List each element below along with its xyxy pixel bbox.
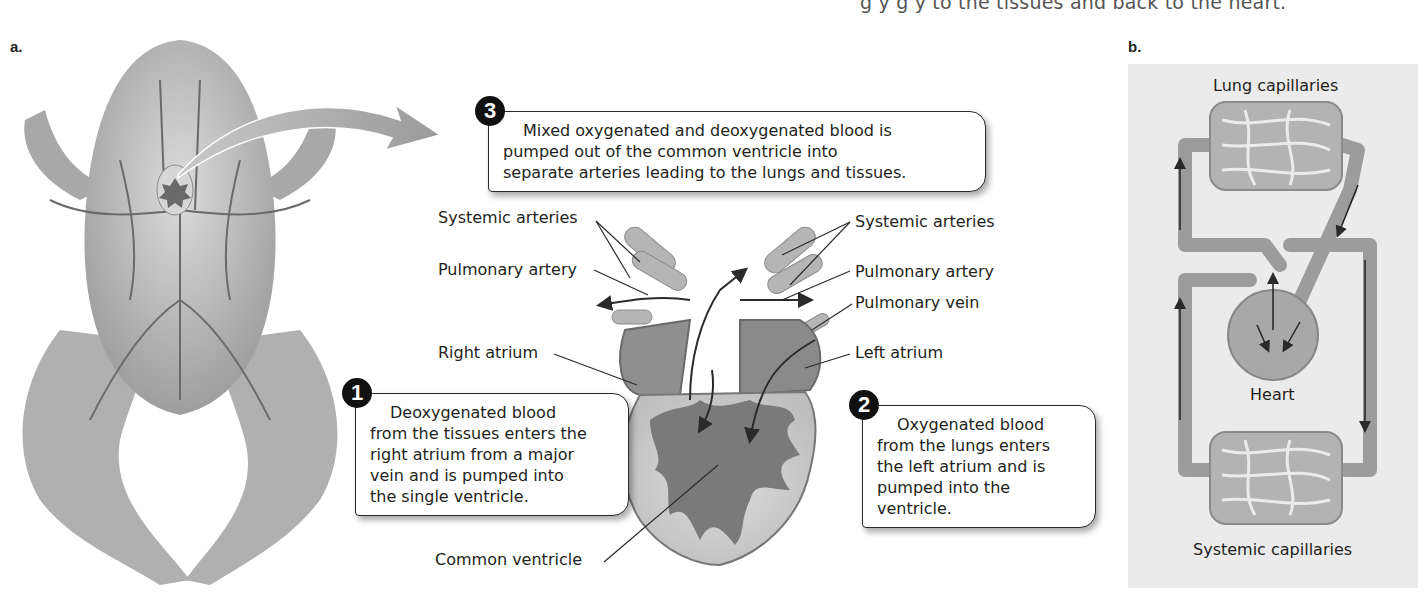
callout-step-1: 1 Deoxygenated blood from the tissues en… xyxy=(355,393,629,516)
label-pulmonary-artery-left: Pulmonary artery xyxy=(438,260,577,279)
step-number-badge: 1 xyxy=(342,378,372,408)
circulation-loop-schematic xyxy=(1180,102,1370,524)
callout-line: the single ventricle. xyxy=(370,486,618,507)
step-number-badge: 3 xyxy=(475,96,505,126)
label-systemic-arteries-left: Systemic arteries xyxy=(438,208,578,227)
label-heart: Heart xyxy=(1250,385,1295,404)
callout-line: Oxygenated blood xyxy=(877,414,1085,435)
label-common-ventricle: Common ventricle xyxy=(435,550,582,569)
label-systemic-capillaries: Systemic capillaries xyxy=(1193,540,1352,559)
callout-line: from the lungs enters xyxy=(877,435,1085,456)
callout-line: Deoxygenated blood xyxy=(370,402,618,423)
step-number-badge: 2 xyxy=(849,390,879,420)
callout-line: separate arteries leading to the lungs a… xyxy=(503,162,975,183)
amphibian-heart-cross-section xyxy=(600,223,831,565)
label-right-atrium: Right atrium xyxy=(438,343,538,362)
callout-line: pumped out of the common ventricle into xyxy=(503,141,975,162)
label-pulmonary-vein: Pulmonary vein xyxy=(855,293,979,312)
label-lung-capillaries: Lung capillaries xyxy=(1213,76,1338,95)
callout-line: ventricle. xyxy=(877,498,1085,519)
callout-line: pumped into the xyxy=(877,477,1085,498)
callout-step-2: 2 Oxygenated blood from the lungs enters… xyxy=(862,405,1096,528)
label-left-atrium: Left atrium xyxy=(855,343,943,362)
callout-line: Mixed oxygenated and deoxygenated blood … xyxy=(503,120,975,141)
callout-line: the left atrium and is xyxy=(877,456,1085,477)
callout-step-3: 3 Mixed oxygenated and deoxygenated bloo… xyxy=(488,111,986,192)
callout-line: from the tissues enters the xyxy=(370,423,618,444)
callout-line: vein and is pumped into xyxy=(370,465,618,486)
callout-line: right atrium from a major xyxy=(370,444,618,465)
label-systemic-arteries-right: Systemic arteries xyxy=(855,212,995,231)
label-pulmonary-artery-right: Pulmonary artery xyxy=(855,262,994,281)
